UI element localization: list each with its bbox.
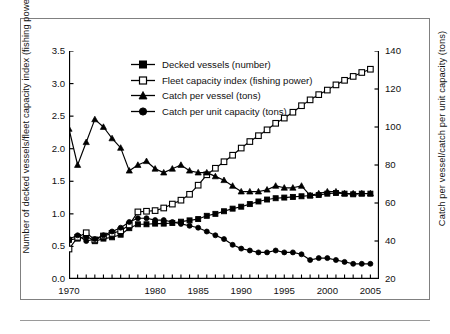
y-axis-right-tick-label: 140 [385,45,411,56]
data-point-marker [69,237,72,242]
data-point-marker [204,229,209,234]
data-point-marker [239,246,244,251]
data-point-marker [101,233,106,238]
y-axis-left-title: Number of decked vessels/fleet capacity … [21,4,32,254]
y-axis-right-tick-label: 100 [385,121,411,132]
data-point-marker [247,248,252,253]
data-point-marker [213,233,218,238]
y-axis-left-tick-label: 2.5 [39,110,65,121]
data-point-marker [213,211,218,216]
y-axis-right-tick-label: 20 [385,273,411,284]
data-point-marker [273,196,278,201]
data-point-marker [143,158,149,164]
data-point-marker [127,220,132,225]
data-point-marker [230,242,235,247]
data-point-marker [135,216,140,221]
x-axis-tick-label: 1985 [178,285,218,296]
data-point-marker [170,201,176,207]
data-point-marker [368,66,374,72]
data-point-marker [264,127,270,133]
data-point-marker [135,209,141,215]
data-point-marker [213,165,219,171]
data-point-marker [247,139,253,145]
data-point-marker [299,194,304,199]
y-axis-left-tick-label: 3.5 [39,45,65,56]
series-fleet-capacity-index-fishing-power [69,66,373,251]
data-point-marker [282,250,287,255]
data-point-marker [333,82,339,88]
x-axis-tick-label: 2005 [350,285,390,296]
data-point-marker [325,87,331,93]
y-axis-right-tick-label: 120 [385,83,411,94]
data-point-marker [342,78,348,84]
data-point-marker [273,248,278,253]
data-point-marker [144,208,150,214]
data-point-marker [316,256,321,261]
data-point-marker [178,162,184,168]
figure-frame: Number of decked vessels/fleet capacity … [20,18,430,300]
series-catch-per-unit-capacity-tons [69,216,373,267]
y-axis-right-title: Catch per vessel/catch per unit capacity… [437,4,448,254]
data-point-marker [222,237,227,242]
data-point-marker [153,218,158,223]
data-point-marker [75,233,80,238]
data-point-marker [359,261,364,266]
x-axis-tick-label: 1995 [264,285,304,296]
data-point-marker [290,109,296,115]
data-point-marker [281,115,287,121]
data-point-marker [178,197,184,203]
data-point-marker [83,139,89,145]
data-point-marker [196,217,201,222]
data-point-marker [161,218,166,223]
data-point-marker [273,183,279,189]
data-point-marker [325,256,330,261]
data-point-marker [187,223,192,228]
data-point-marker [290,250,295,255]
data-point-marker [110,229,115,234]
data-point-marker [204,213,209,218]
data-point-marker [187,192,193,198]
data-point-marker [230,206,235,211]
data-point-marker [92,237,97,242]
data-point-marker [152,208,158,214]
data-point-marker [75,162,81,168]
data-point-marker [126,168,132,174]
data-point-marker [239,204,244,209]
data-point-marker [178,221,183,226]
data-point-marker [195,182,201,188]
y-axis-left-tick-label: 0.5 [39,240,65,251]
data-point-marker [265,250,270,255]
y-axis-right-tick-label: 40 [385,235,411,246]
chart-canvas [69,51,379,279]
data-point-marker [247,202,252,207]
data-point-marker [187,218,192,223]
data-point-marker [256,133,262,139]
data-point-marker [222,209,227,214]
data-point-marker [69,246,72,252]
data-point-marker [350,74,356,80]
data-point-marker [196,225,201,230]
data-point-marker [256,199,261,204]
data-point-marker [273,121,279,127]
data-point-marker [69,126,72,132]
data-point-marker [118,225,123,230]
data-point-marker [307,97,313,103]
data-point-marker [161,205,167,211]
x-axis-tick-label: 1970 [49,285,89,296]
data-point-marker [83,230,89,236]
data-point-marker [368,261,373,266]
data-point-marker [230,183,236,189]
data-point-marker [135,222,140,227]
y-axis-left-tick-label: 3.0 [39,78,65,89]
data-point-marker [290,194,295,199]
data-point-marker [333,258,338,263]
data-point-marker [298,183,304,189]
plot-area [69,51,379,279]
data-point-marker [359,70,365,76]
data-point-marker [186,168,192,174]
data-point-marker [299,103,305,109]
data-point-marker [351,261,356,266]
data-point-marker [230,152,236,158]
y-axis-left-tick-label: 1.5 [39,175,65,186]
data-point-marker [256,250,261,255]
